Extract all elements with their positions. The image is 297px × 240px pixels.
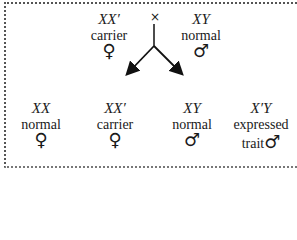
phenotype-label-line2: trait♂ <box>228 134 294 151</box>
offspring-3: XY normal ♂ <box>167 101 217 148</box>
offspring-2: XX′ carrier ♀ <box>92 101 138 148</box>
female-icon: ♀ <box>92 132 138 148</box>
genotype: XX <box>18 101 64 116</box>
male-icon: ♂ <box>264 131 280 152</box>
male-icon: ♂ <box>167 132 217 148</box>
female-icon: ♀ <box>18 132 64 148</box>
offspring-1: XX normal ♀ <box>18 101 64 148</box>
phenotype-label: expressed <box>228 118 294 132</box>
phenotype-label-trait: trait <box>242 136 265 151</box>
genotype: XX′ <box>92 101 138 116</box>
offspring-4: X′Y expressed trait♂ <box>228 101 294 151</box>
genotype: X′Y <box>228 101 294 116</box>
genotype: XY <box>167 101 217 116</box>
